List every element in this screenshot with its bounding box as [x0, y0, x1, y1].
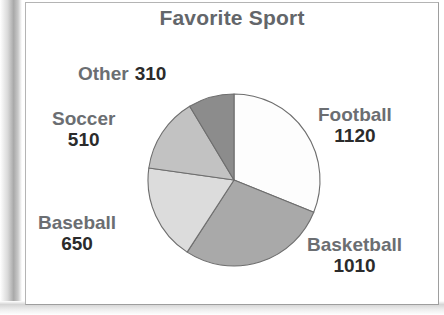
slice-label-football: Football 1120: [318, 104, 392, 147]
slice-label-soccer-name: Soccer: [52, 108, 115, 129]
slice-label-soccer: Soccer 510: [52, 108, 115, 151]
page-title: Favorite Sport: [25, 6, 439, 30]
slice-label-other: Other310: [78, 63, 166, 84]
slice-label-baseball-value: 650: [61, 233, 93, 254]
slice-label-basketball-value: 1010: [333, 255, 375, 276]
slice-label-baseball-name: Baseball: [38, 212, 116, 233]
pie-chart: [146, 86, 322, 276]
slice-label-basketball-name: Basketball: [307, 234, 402, 255]
slice-label-football-value: 1120: [334, 125, 375, 146]
pie-chart-page: Favorite Sport Football 1120 Basketball …: [0, 0, 444, 315]
slice-label-football-name: Football: [318, 104, 392, 125]
pie-svg: [146, 86, 322, 276]
slice-label-baseball: Baseball 650: [38, 212, 116, 255]
slice-label-other-name: Other: [78, 63, 129, 84]
slice-label-other-value: 310: [135, 63, 167, 84]
slice-label-basketball: Basketball 1010: [307, 234, 402, 277]
page-edge-shadow-left: [0, 0, 22, 315]
pie-slice-group: [148, 94, 320, 266]
slice-label-soccer-value: 510: [68, 129, 100, 150]
